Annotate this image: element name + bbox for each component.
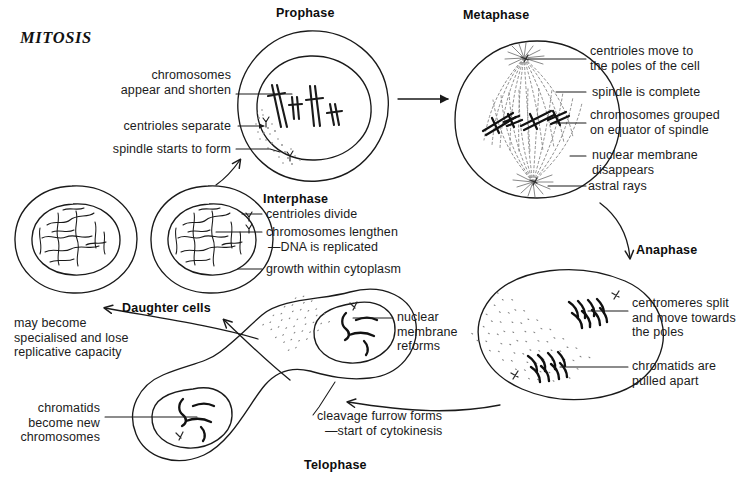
- prophase-chromosomes: [268, 85, 342, 127]
- annotation-nuclear-membrane-reforms: nuclear membrane reforms: [397, 310, 458, 354]
- annotation-astral-rays: astral rays: [588, 179, 647, 194]
- annotation-centromeres-split: centromeres split and move towards the p…: [632, 296, 736, 340]
- interphase-chromatin: [176, 208, 242, 266]
- stage-label-metaphase: Metaphase: [463, 8, 529, 22]
- stage-label-daughter-cells: Daughter cells: [122, 301, 211, 315]
- daughter-cell-left-chromatin: [40, 208, 106, 266]
- prophase-cell: [238, 31, 389, 181]
- annotation-may-become: may become specialised and lose replicat…: [14, 316, 129, 360]
- mitosis-diagram-page: MITOSIS Prophase Metaphase Anaphase Telo…: [0, 0, 740, 489]
- page-title: MITOSIS: [20, 28, 92, 48]
- annotation-chromatids-become: chromatids become new chromosomes: [0, 401, 100, 445]
- stage-label-telophase: Telophase: [304, 458, 367, 472]
- annotation-start-cytokinesis: —start of cytokinesis: [325, 424, 442, 439]
- daughter-cell-interphase: [151, 186, 273, 293]
- annotation-cleavage-furrow: cleavage furrow forms: [317, 409, 442, 424]
- cleavage-furrow-stipple: [262, 288, 332, 357]
- arrow-telophase-to-daughter-right: [224, 320, 290, 380]
- telophase-chromosomes-lower: [179, 399, 214, 441]
- annotation-chromosomes-lengthen: chromosomes lengthen: [266, 225, 398, 240]
- daughter-cell-left: [15, 186, 137, 293]
- annotation-spindle-starts: spindle starts to form: [26, 142, 231, 157]
- leader-spindle-starts: [236, 149, 280, 152]
- annotation-centrioles-divide: centrioles divide: [266, 207, 357, 222]
- annotation-chromosomes-grouped: chromosomes grouped on equator of spindl…: [590, 108, 720, 137]
- annotation-chromatids-pulled: chromatids are pulled apart: [632, 359, 716, 388]
- stage-label-interphase: Interphase: [263, 192, 328, 206]
- anaphase-chromatids-upper: [569, 299, 607, 328]
- arrow-metaphase-to-anaphase: [600, 203, 630, 258]
- annotation-dna-replicated: —DNA is replicated: [268, 240, 378, 255]
- annotation-growth-cytoplasm: growth within cytoplasm: [266, 262, 401, 277]
- stage-label-prophase: Prophase: [276, 6, 335, 20]
- stage-label-anaphase: Anaphase: [636, 243, 697, 257]
- annotation-spindle-complete: spindle is complete: [592, 85, 700, 100]
- annotation-chromosomes-appear: chromosomes appear and shorten: [26, 68, 231, 97]
- annotation-centrioles-move: centrioles move to the poles of the cell: [590, 44, 700, 73]
- annotation-centrioles-separate: centrioles separate: [26, 119, 231, 134]
- telophase-chromosomes-upper: [342, 313, 377, 355]
- annotation-nuclear-membrane-disappears: nuclear membrane disappears: [592, 148, 698, 177]
- arrow-interphase-to-prophase: [216, 160, 240, 185]
